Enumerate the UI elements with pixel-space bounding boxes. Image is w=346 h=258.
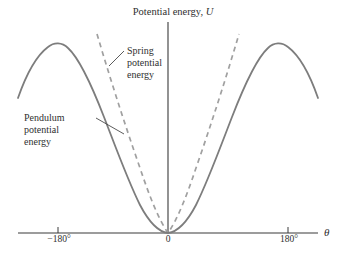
x-axis-label: θ [324, 226, 329, 239]
potential-energy-figure: Potential energy, U Spring potential ene… [0, 0, 346, 258]
x-tick-label-neg180: −180° [38, 234, 80, 245]
chart-title-text: Potential energy, [133, 6, 206, 17]
pendulum-annotation-label: Pendulum potential energy [24, 112, 65, 147]
chart-title-variable: U [206, 6, 214, 17]
spring-leader-line [109, 51, 124, 66]
x-tick-label-zero: 0 [156, 234, 180, 245]
chart-title: Potential energy, U [0, 6, 346, 18]
spring-annotation-label: Spring potential energy [127, 45, 162, 80]
x-tick-label-180: 180° [268, 234, 310, 245]
